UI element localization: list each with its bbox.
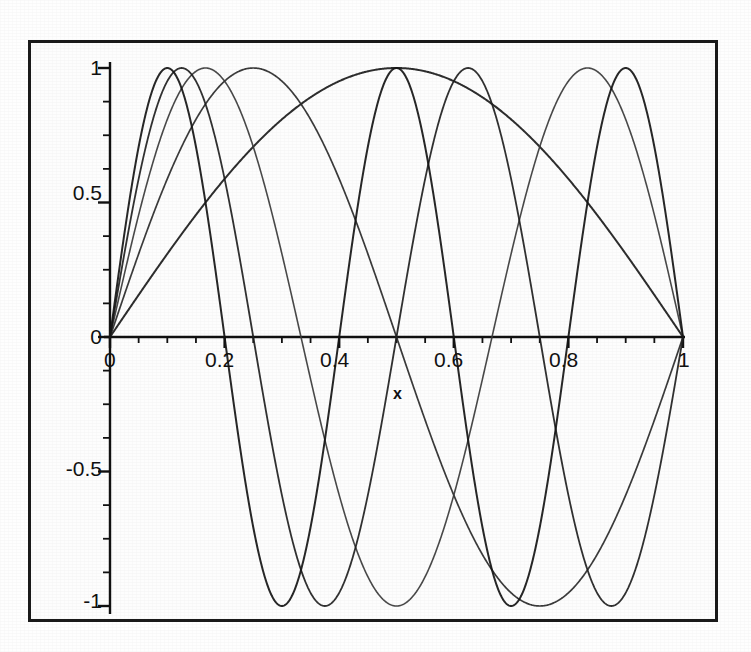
- x-tick-label-0p4: 0.4: [320, 348, 349, 372]
- y-tick-label-0: 0: [70, 325, 102, 349]
- x-tick-label-1: 1: [678, 348, 690, 372]
- x-tick-label-0p2: 0.2: [205, 348, 234, 372]
- x-axis-title: x: [393, 385, 402, 403]
- x-tick-label-0: 0: [104, 348, 116, 372]
- x-tick-label-0p8: 0.8: [549, 348, 578, 372]
- curve-1: [110, 68, 683, 337]
- plot-area: [0, 0, 751, 652]
- x-tick-label-0p6: 0.6: [434, 348, 463, 372]
- y-tick-label-0p5: 0.5: [46, 181, 102, 205]
- figure-canvas: 1 0.5 0 -0.5 -1 0 0.2 0.4 0.6 0.8 1 x: [0, 0, 751, 652]
- y-tick-label-neg1: -1: [60, 589, 102, 613]
- y-tick-label-1: 1: [70, 56, 102, 80]
- y-tick-label-neg0p5: -0.5: [38, 457, 102, 481]
